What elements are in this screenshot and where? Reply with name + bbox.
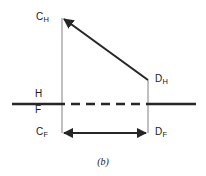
- point-label-d-f: DF: [155, 127, 167, 137]
- point-label-d-h: DH: [155, 74, 168, 84]
- plane-label-horizontal: H: [35, 89, 42, 99]
- plane-label-frontal: F: [35, 105, 41, 115]
- point-label-c-h-subscript: H: [43, 15, 48, 24]
- figure-container: CH DH CF DF H F (b): [0, 0, 206, 176]
- point-label-c-f: CF: [36, 127, 48, 137]
- top-view-segment-ch-dh: [64, 19, 148, 80]
- point-label-c-f-subscript: F: [43, 130, 48, 139]
- point-label-c-h: CH: [36, 12, 49, 22]
- figure-caption: (b): [0, 156, 206, 167]
- point-label-d-f-subscript: F: [162, 130, 167, 139]
- diagram-canvas: [0, 0, 206, 176]
- point-label-d-h-subscript: H: [162, 77, 167, 86]
